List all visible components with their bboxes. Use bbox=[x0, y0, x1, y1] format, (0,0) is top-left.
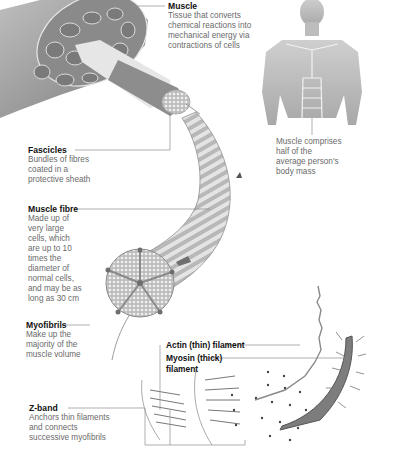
fascicles-label: Fascicles Bundles of fibres coated in a … bbox=[28, 145, 128, 185]
muscle-label-title: Muscle bbox=[168, 1, 298, 11]
z-band-label: Z-band Anchors thin filaments and connec… bbox=[29, 403, 149, 443]
myofibrils-label-desc: Make up the majority of the muscle volum… bbox=[26, 330, 116, 360]
fascicles-label-title: Fascicles bbox=[28, 145, 128, 155]
muscle-label: Muscle Tissue that converts chemical rea… bbox=[168, 1, 298, 51]
muscle-fibre-label: Muscle fibre Made up of very large cells… bbox=[28, 204, 108, 304]
muscle-label-desc: Tissue that converts chemical reactions … bbox=[168, 11, 298, 51]
body-mass-note: Muscle comprises half of the average per… bbox=[276, 137, 376, 177]
myosin-filament-label: Myosin (thick) filament bbox=[166, 353, 222, 374]
fascicles-label-desc: Bundles of fibres coated in a protective… bbox=[28, 155, 128, 185]
z-band-label-desc: Anchors thin filaments and connects succ… bbox=[29, 413, 149, 443]
myofibrils-label-title: Myofibrils bbox=[26, 320, 116, 330]
muscle-anatomy-diagram: Muscle Tissue that converts chemical rea… bbox=[0, 0, 393, 454]
actin-filament-label: Actin (thin) filament bbox=[166, 340, 245, 351]
muscle-fibre-label-title: Muscle fibre bbox=[28, 204, 108, 214]
myofibrils-label: Myofibrils Make up the majority of the m… bbox=[26, 320, 116, 360]
muscle-fibre-label-desc: Made up of very large cells, which are u… bbox=[28, 214, 108, 304]
body-mass-note-desc: Muscle comprises half of the average per… bbox=[276, 137, 376, 177]
z-band-label-title: Z-band bbox=[29, 403, 149, 413]
